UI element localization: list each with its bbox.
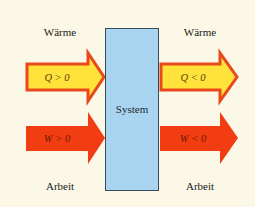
work-out-arrow: W < 0: [160, 112, 238, 164]
system-box: System: [105, 28, 159, 191]
heat-out-label: Q < 0: [180, 72, 206, 83]
heat-in-label: Q > 0: [44, 72, 70, 83]
heat-in-arrow: Q > 0: [27, 53, 104, 101]
work-in-arrow: W > 0: [26, 112, 105, 164]
work-out-label: W < 0: [180, 133, 207, 144]
work-in-label: W > 0: [44, 133, 71, 144]
heat-out-arrow: Q < 0: [161, 53, 237, 101]
system-label: System: [106, 103, 158, 115]
